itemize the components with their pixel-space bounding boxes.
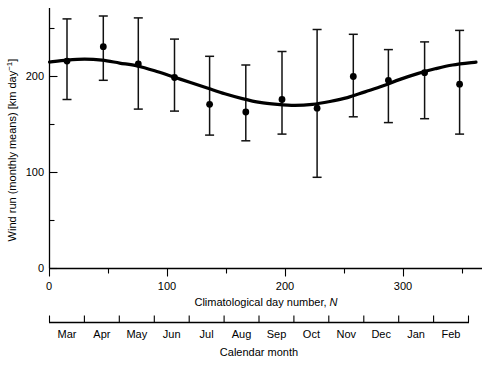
x-axis-title-main: Climatological day number,: [194, 296, 326, 308]
month-label-jul: Jul: [200, 328, 214, 340]
month-label-aug: Aug: [232, 328, 252, 340]
x-tick-label-300: 300: [394, 280, 412, 292]
month-label-apr: Apr: [93, 328, 110, 340]
y-tick-label-200: 200: [26, 70, 44, 82]
month-axis-title: Calendar month: [220, 346, 298, 358]
month-label-sep: Sep: [267, 328, 287, 340]
y-axis-title-main: Wind run (monthly means) [km day: [6, 70, 18, 241]
wind-run-chart-figure: 0 100 200 Wind run (monthly means) [km d…: [0, 0, 493, 367]
y-tick-label-0: 0: [38, 262, 44, 274]
month-label-nov: Nov: [337, 328, 357, 340]
data-point-feb: [456, 81, 463, 88]
data-point-oct: [314, 105, 321, 112]
x-axis-title: Climatological day number, N: [194, 296, 337, 308]
data-point-nov: [350, 73, 357, 80]
y-axis-title: Wind run (monthly means) [km day−1]: [5, 59, 18, 242]
data-point-dec: [385, 77, 392, 84]
data-point-aug: [242, 109, 249, 116]
y-axis-title-tail: ]: [6, 59, 18, 62]
x-tick-label-100: 100: [158, 280, 176, 292]
month-label-group: MarAprMayJunJulAugSepOctNovDecJanFeb: [58, 328, 461, 340]
month-label-may: May: [126, 328, 147, 340]
data-point-mar: [64, 58, 71, 65]
x-axis-day-number: 0 100 200 300 Climatological day number,…: [46, 269, 482, 309]
y-axis: 0 100 200: [26, 8, 58, 274]
data-point-jan: [421, 69, 428, 76]
data-point-jul: [206, 101, 213, 108]
month-label-jan: Jan: [407, 328, 425, 340]
svg-text:Wind run (monthly means) [km d: Wind run (monthly means) [km day−1]: [5, 59, 18, 242]
month-label-feb: Feb: [442, 328, 461, 340]
x-tick-label-0: 0: [46, 280, 52, 292]
x-axis-calendar-month: MarAprMayJunJulAugSepOctNovDecJanFeb Cal…: [49, 316, 469, 359]
error-bars-group: [63, 16, 465, 177]
data-point-jun: [171, 74, 178, 81]
chart-svg: 0 100 200 Wind run (monthly means) [km d…: [0, 0, 493, 367]
data-point-sep: [279, 96, 286, 103]
y-tick-label-100: 100: [26, 166, 44, 178]
data-point-may: [135, 61, 142, 68]
month-label-jun: Jun: [163, 328, 181, 340]
data-point-apr: [100, 43, 107, 50]
x-axis-title-symbol: N: [330, 296, 338, 308]
month-label-oct: Oct: [303, 328, 320, 340]
fitted-curve: [50, 59, 477, 105]
month-label-dec: Dec: [371, 328, 391, 340]
x-tick-label-200: 200: [276, 280, 294, 292]
month-tick-group: [50, 316, 469, 323]
month-label-mar: Mar: [58, 328, 77, 340]
